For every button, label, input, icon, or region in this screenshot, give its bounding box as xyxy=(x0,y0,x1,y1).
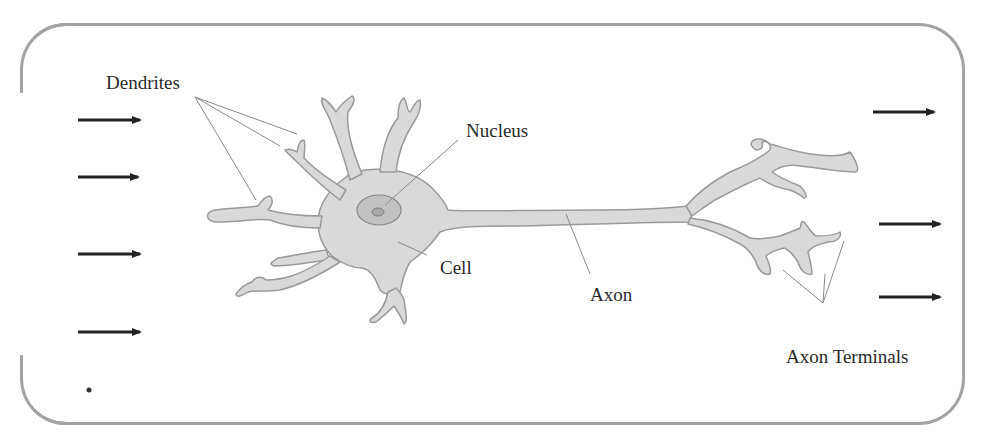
label-axon: Axon xyxy=(590,285,632,304)
label-nucleus: Nucleus xyxy=(466,121,528,140)
nucleolus xyxy=(372,208,384,216)
output-arrows xyxy=(873,112,940,297)
input-arrows xyxy=(78,120,140,393)
dendrite xyxy=(208,196,323,228)
label-cell: Cell xyxy=(440,258,472,277)
dendrite xyxy=(285,140,346,200)
axon-terminal-branch-lower xyxy=(688,218,840,274)
neuron-diagram xyxy=(0,0,993,446)
cell-body xyxy=(318,169,692,295)
label-axon-terminals: Axon Terminals xyxy=(786,347,908,366)
neuron xyxy=(208,96,858,324)
dendrite xyxy=(370,288,406,324)
dot-mark xyxy=(87,388,92,393)
axon-terminal-branch-upper xyxy=(686,139,858,216)
dendrite xyxy=(380,98,421,172)
dendrite xyxy=(322,96,362,180)
label-dendrites: Dendrites xyxy=(106,73,180,92)
